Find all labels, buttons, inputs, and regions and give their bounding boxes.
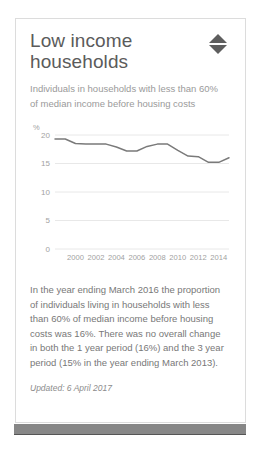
chart-y-tick: 10	[41, 188, 50, 197]
chart-x-tick: 2010	[169, 253, 186, 262]
chart-y-axis-unit: %	[33, 123, 40, 132]
chart-series-line	[55, 139, 229, 162]
chart-y-tick: 5	[46, 216, 51, 225]
page-title: Low income households	[30, 30, 180, 72]
sort-updown-icon[interactable]	[206, 32, 230, 56]
chart-x-tick-labels: 20002002200420062008201020122014	[67, 253, 227, 262]
chart-x-tick: 2006	[128, 253, 145, 262]
card-inner: Low income households Individuals in hou…	[16, 19, 245, 422]
card-body-text: In the year ending March 2016 the propor…	[30, 283, 230, 371]
chart-svg: 05101520 2000200220042006200820102012201…	[30, 119, 233, 271]
chart-x-tick: 2004	[108, 253, 125, 262]
low-income-households-card: Low income households Individuals in hou…	[15, 18, 246, 423]
card-subtitle: Individuals in households with less than…	[30, 82, 220, 111]
chart-y-tick: 15	[41, 159, 50, 168]
chart-x-tick: 2002	[87, 253, 104, 262]
chart-x-tick: 2012	[190, 253, 207, 262]
card-header: Low income households	[30, 30, 231, 72]
low-income-line-chart: 05101520 2000200220042006200820102012201…	[30, 119, 233, 271]
chart-y-tick: 20	[41, 131, 50, 140]
chart-gridlines	[55, 135, 229, 249]
updated-timestamp: Updated: 6 April 2017	[30, 383, 231, 393]
chart-x-tick: 2000	[67, 253, 84, 262]
chart-y-tick: 0	[46, 245, 51, 254]
chart-x-tick: 2008	[149, 253, 166, 262]
chart-y-tick-labels: 05101520	[41, 131, 50, 254]
bottom-scroll-bar[interactable]	[14, 424, 246, 435]
chart-x-tick: 2014	[210, 253, 227, 262]
